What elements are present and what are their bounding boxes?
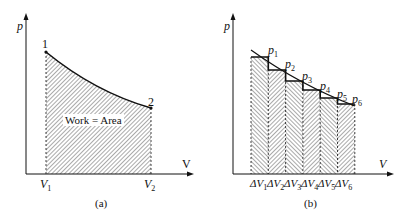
- x-axis-label-b: V: [379, 158, 386, 170]
- delta-v-label-2: ΔV2: [267, 178, 284, 192]
- delta-v-label-3: ΔV3: [284, 178, 301, 192]
- pressure-label-1: p1: [268, 44, 278, 59]
- point-1-label: 1: [42, 38, 48, 50]
- v2-label: V2: [144, 178, 155, 193]
- work-area-label: Work = Area: [63, 114, 124, 126]
- x-axis-label-a: V: [182, 158, 191, 170]
- delta-v-label-5: ΔV5: [318, 178, 335, 192]
- point-2-label: 2: [148, 96, 154, 108]
- work-area-region: [46, 52, 151, 174]
- panel-b: [231, 13, 395, 177]
- pressure-label-3: p3: [302, 70, 312, 85]
- caption-b: (b): [304, 198, 317, 209]
- delta-v-label-6: ΔV6: [335, 178, 352, 192]
- v1-label: V1: [40, 178, 51, 193]
- y-axis-label-b: p: [224, 20, 230, 32]
- delta-v-label-4: ΔV4: [301, 178, 318, 192]
- pressure-label-2: p2: [285, 58, 295, 73]
- caption-a: (a): [95, 198, 107, 209]
- y-axis-label-a: p: [17, 20, 23, 32]
- pressure-label-6: p6: [352, 93, 362, 108]
- delta-v-label-1: ΔV1: [250, 178, 267, 192]
- pressure-label-4: p4: [320, 80, 330, 95]
- pressure-label-5: p5: [337, 88, 347, 103]
- panel-a: [24, 13, 195, 177]
